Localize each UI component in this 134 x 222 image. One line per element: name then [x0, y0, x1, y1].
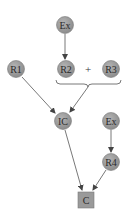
node-ic: IC [55, 113, 72, 130]
node-r2: R2 [58, 61, 75, 78]
svg-text:R4: R4 [105, 157, 117, 168]
svg-text:R2: R2 [60, 64, 72, 75]
svg-text:IC: IC [58, 116, 68, 127]
diagram-canvas: Ex R1 R2 + R3 IC Ex R4 C [0, 0, 134, 222]
node-ex-right: Ex [103, 113, 120, 130]
svg-text:Ex: Ex [105, 116, 116, 127]
node-c: C [78, 192, 94, 208]
node-r3: R3 [103, 61, 120, 78]
edge-r1-to-ic [22, 77, 55, 113]
svg-text:Ex: Ex [59, 20, 70, 31]
edge-ic-to-c [65, 130, 82, 190]
svg-text:R3: R3 [105, 64, 117, 75]
node-r1: R1 [8, 61, 25, 78]
edge-group-to-ic [70, 87, 88, 112]
node-r4: R4 [103, 154, 120, 171]
edges [22, 34, 111, 190]
edge-r4-to-c [93, 170, 106, 190]
svg-text:R1: R1 [10, 64, 22, 75]
node-ex-top: Ex [57, 17, 74, 34]
group-brace [56, 80, 121, 87]
svg-text:C: C [83, 195, 90, 206]
plus-operator: + [85, 63, 91, 75]
